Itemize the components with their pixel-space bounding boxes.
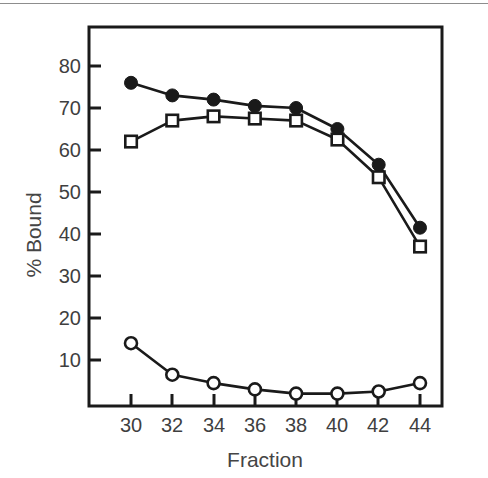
y-tick-label: 20 bbox=[59, 307, 81, 329]
y-tick-label: 70 bbox=[59, 97, 81, 119]
x-tick-label: 36 bbox=[244, 414, 266, 436]
marker-open-circle bbox=[125, 337, 137, 349]
y-tick-label: 80 bbox=[59, 55, 81, 77]
marker-open-circle bbox=[331, 388, 343, 400]
figure-container: 10 20 30 40 50 60 70 80 30 32 34 36 38 4… bbox=[0, 0, 488, 478]
y-tick-label: 50 bbox=[59, 181, 81, 203]
y-axis-ticks bbox=[89, 66, 101, 360]
marker-open-square bbox=[414, 241, 426, 253]
x-tick-label: 42 bbox=[367, 414, 389, 436]
x-axis-title: Fraction bbox=[227, 448, 303, 471]
marker-open-square bbox=[125, 136, 137, 148]
y-tick-label: 10 bbox=[59, 349, 81, 371]
x-tick-label: 44 bbox=[409, 414, 431, 436]
series-open-circle-series bbox=[125, 337, 426, 399]
y-axis-title: % Bound bbox=[22, 192, 45, 277]
marker-filled-circle bbox=[290, 102, 303, 115]
marker-open-circle bbox=[249, 383, 261, 395]
marker-filled-circle bbox=[414, 221, 427, 234]
marker-open-circle bbox=[166, 369, 178, 381]
marker-open-square bbox=[332, 134, 344, 146]
y-tick-label: 30 bbox=[59, 265, 81, 287]
y-tick-label: 40 bbox=[59, 223, 81, 245]
marker-open-square bbox=[290, 115, 302, 127]
x-tick-label: 30 bbox=[120, 414, 142, 436]
y-tick-label: 60 bbox=[59, 139, 81, 161]
y-tick-labels: 10 20 30 40 50 60 70 80 bbox=[59, 55, 81, 371]
marker-filled-circle bbox=[372, 158, 385, 171]
chart-canvas: 10 20 30 40 50 60 70 80 30 32 34 36 38 4… bbox=[0, 0, 488, 478]
marker-open-circle bbox=[208, 377, 220, 389]
x-tick-label: 40 bbox=[326, 414, 348, 436]
x-tick-label: 32 bbox=[161, 414, 183, 436]
marker-open-circle bbox=[414, 377, 426, 389]
marker-filled-circle bbox=[125, 76, 138, 89]
marker-open-square bbox=[208, 111, 220, 123]
x-tick-labels: 30 32 34 36 38 40 42 44 bbox=[120, 414, 431, 436]
x-tick-label: 38 bbox=[285, 414, 307, 436]
series-filled-circle-series bbox=[125, 76, 427, 234]
marker-filled-circle bbox=[207, 93, 220, 106]
data-series-layer bbox=[125, 76, 427, 399]
marker-filled-circle bbox=[166, 89, 179, 102]
marker-open-circle bbox=[290, 388, 302, 400]
series-line bbox=[131, 83, 420, 228]
marker-open-square bbox=[373, 172, 385, 184]
series-open-square-series bbox=[125, 111, 426, 253]
marker-open-circle bbox=[373, 386, 385, 398]
marker-open-square bbox=[167, 115, 179, 127]
marker-filled-circle bbox=[248, 99, 261, 112]
plot-frame bbox=[89, 27, 442, 406]
x-tick-label: 34 bbox=[203, 414, 225, 436]
marker-open-square bbox=[249, 113, 261, 125]
